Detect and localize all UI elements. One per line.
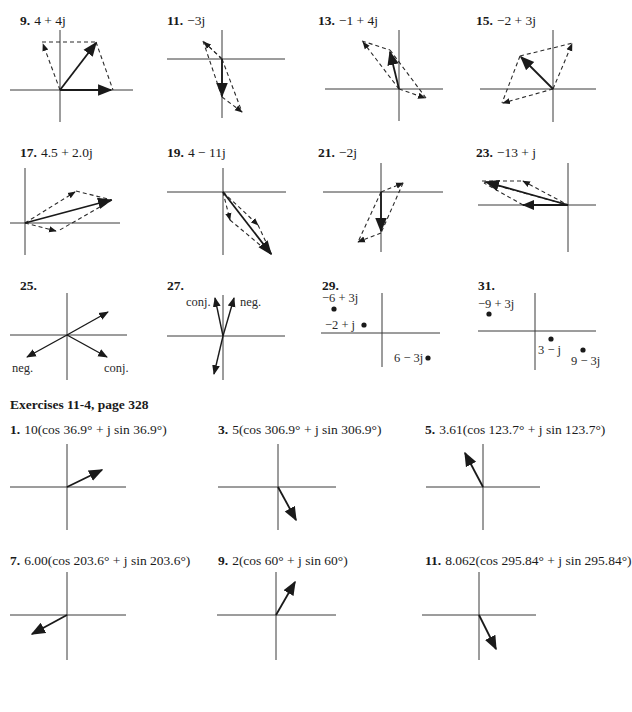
figure-polar-11 xyxy=(0,0,611,712)
